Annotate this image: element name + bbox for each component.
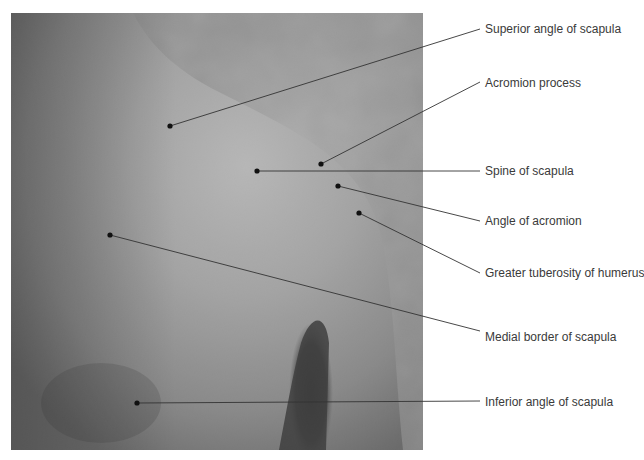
label-acromion-process: Acromion process bbox=[485, 76, 581, 90]
label-superior-angle-of-scapula: Superior angle of scapula bbox=[485, 22, 621, 36]
label-angle-of-acromion: Angle of acromion bbox=[485, 214, 582, 228]
label-inferior-angle-of-scapula: Inferior angle of scapula bbox=[485, 395, 613, 409]
label-spine-of-scapula: Spine of scapula bbox=[485, 164, 574, 178]
shoulder-photograph bbox=[11, 13, 423, 450]
label-medial-border-of-scapula: Medial border of scapula bbox=[485, 330, 616, 344]
label-greater-tuberosity-of-humerus: Greater tuberosity of humerus bbox=[485, 266, 644, 280]
